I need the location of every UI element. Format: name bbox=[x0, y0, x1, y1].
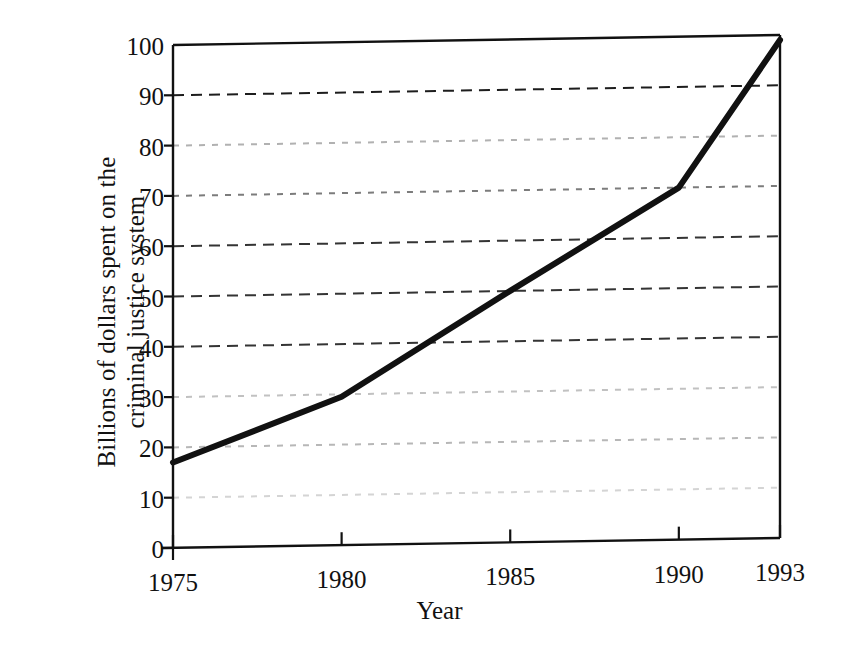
x-tick-label-1990: 1990 bbox=[654, 562, 704, 587]
gridlines bbox=[173, 85, 780, 497]
x-axis-title: Year bbox=[0, 597, 851, 625]
data-line-series bbox=[173, 40, 780, 463]
x-tick-label-1975: 1975 bbox=[148, 570, 198, 595]
plot-canvas bbox=[0, 0, 851, 649]
x-tick-label-1993: 1993 bbox=[755, 560, 805, 585]
axis-tick-marks bbox=[161, 95, 780, 560]
x-tick-label-1980: 1980 bbox=[317, 567, 367, 592]
chart-figure: Billions of dollars spent on the crimina… bbox=[0, 0, 851, 649]
x-axis-tick-labels: 19751980198519901993 bbox=[0, 556, 851, 596]
x-tick-label-1985: 1985 bbox=[485, 564, 535, 589]
